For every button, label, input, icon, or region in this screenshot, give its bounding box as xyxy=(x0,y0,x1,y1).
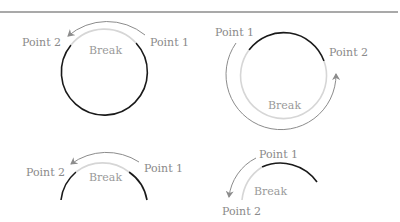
panel-half-arc-short-break: Point 2 Point 1 Break xyxy=(26,152,183,200)
point-2-label: Point 2 xyxy=(22,36,61,49)
break-arc xyxy=(71,29,136,45)
point-2-label: Point 2 xyxy=(222,205,261,218)
point-1-label: Point 1 xyxy=(150,36,189,49)
arc-segment xyxy=(262,163,317,182)
break-label: Break xyxy=(89,171,122,184)
point-2-label: Point 2 xyxy=(26,166,65,179)
panel-full-circle-short-break: Point 2 Point 1 Break xyxy=(22,22,189,116)
point-1-label: Point 1 xyxy=(215,26,254,39)
point-1-label: Point 1 xyxy=(144,162,183,175)
point-2-label: Point 2 xyxy=(329,46,368,59)
panel-partial-arc-break: Point 1 Point 2 Break xyxy=(222,148,317,218)
break-label: Break xyxy=(89,44,122,57)
arc-break-diagram: Point 2 Point 1 Break Point 1 Point 2 Br… xyxy=(0,0,400,222)
panel-full-circle-long-break: Point 1 Point 2 Break xyxy=(215,26,368,130)
break-label: Break xyxy=(268,99,301,112)
break-label: Break xyxy=(254,185,287,198)
arc-segment-right xyxy=(129,172,147,200)
arc-segment xyxy=(249,33,324,61)
direction-arrow xyxy=(229,158,256,197)
point-1-label: Point 1 xyxy=(259,148,298,161)
